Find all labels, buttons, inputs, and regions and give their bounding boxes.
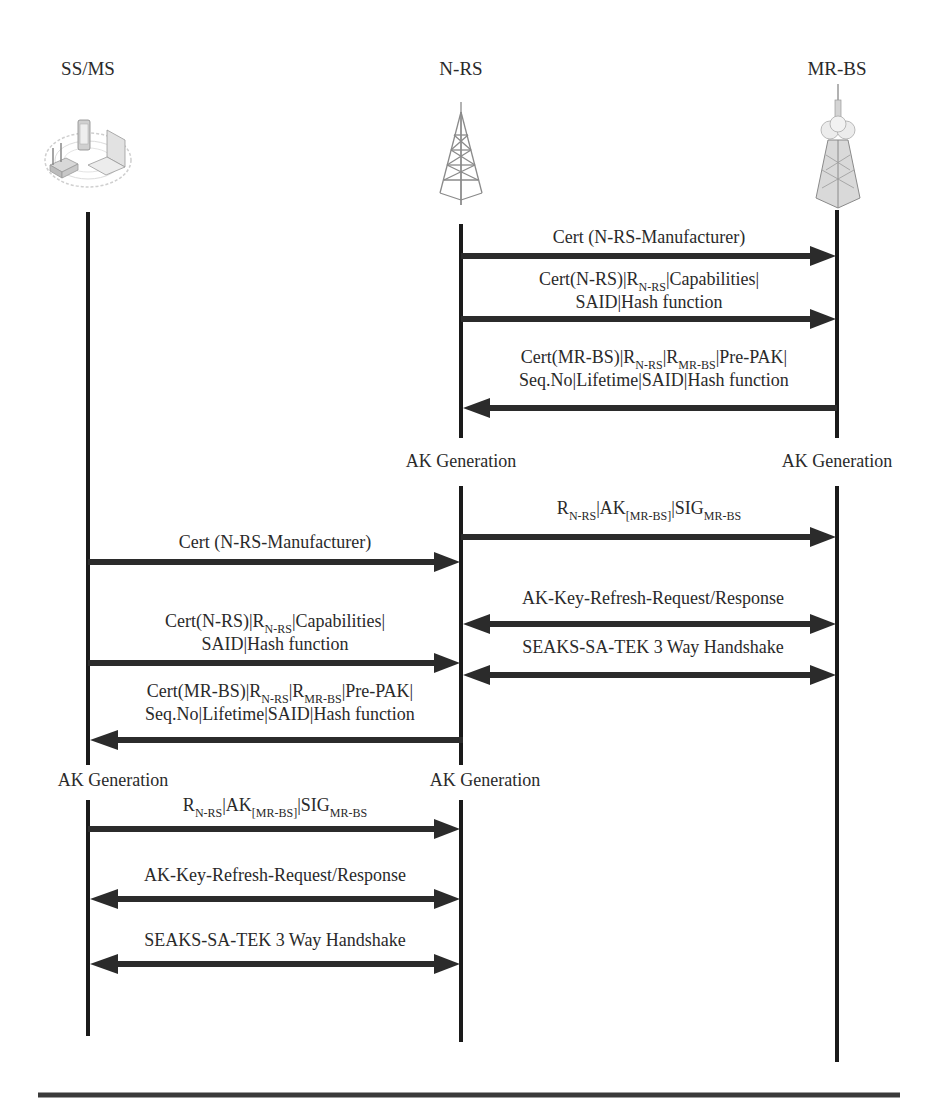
p1-msg5-label: AK-Key-Refresh-Request/Response <box>522 588 784 608</box>
p2-msg6-arrow <box>90 954 460 974</box>
p2-msg1-label: Cert (N-RS-Manufacturer) <box>179 532 371 553</box>
p1-msg4-label: RN-RS|AK[MR-BS]|SIGMR-BS <box>557 498 741 523</box>
p1-msg6-label: SEAKS-SA-TEK 3 Way Handshake <box>522 637 784 657</box>
lattice-tower-icon <box>440 102 482 205</box>
base-station-tower-icon <box>816 84 860 208</box>
p2-msg3-line1: Cert(MR-BS)|RN-RS|RMR-BS|Pre-PAK| <box>147 681 413 706</box>
p1-ak-generation-n-rs: AK Generation <box>406 451 516 471</box>
sequence-diagram: SS/MS N-RS MR-BS <box>0 0 950 1109</box>
p1-msg2-line1: Cert(N-RS)|RN-RS|Capabilities| <box>539 269 759 294</box>
participant-ss-ms-label: SS/MS <box>61 58 115 79</box>
p1-ak-generation-mr-bs: AK Generation <box>782 451 892 471</box>
p2-msg5-arrow <box>90 889 460 909</box>
p1-msg3-line2: Seq.No|Lifetime|SAID|Hash function <box>519 370 789 390</box>
p2-msg6-label: SEAKS-SA-TEK 3 Way Handshake <box>144 930 406 950</box>
p2-ak-generation-n-rs: AK Generation <box>430 770 540 790</box>
participant-n-rs-label: N-RS <box>439 58 482 79</box>
p1-msg1-arrow <box>461 246 836 266</box>
p1-msg1-label: Cert (N-RS-Manufacturer) <box>553 227 745 248</box>
p1-msg2-arrow <box>461 309 836 329</box>
p2-msg5-label: AK-Key-Refresh-Request/Response <box>144 865 406 885</box>
p2-msg4-label: RN-RS|AK[MR-BS]|SIGMR-BS <box>183 795 367 820</box>
p1-msg5-arrow <box>463 614 836 634</box>
p2-msg2-arrow <box>88 653 460 673</box>
p2-msg3-line2: Seq.No|Lifetime|SAID|Hash function <box>145 704 415 724</box>
p2-msg4-arrow <box>88 819 460 839</box>
p2-msg1-arrow <box>88 552 460 572</box>
p1-msg6-arrow <box>463 665 836 685</box>
p2-msg2-line1: Cert(N-RS)|RN-RS|Capabilities| <box>165 611 385 636</box>
p2-ak-generation-ss-ms: AK Generation <box>58 770 168 790</box>
p2-msg3-arrow <box>90 730 463 750</box>
p1-msg2-line2: SAID|Hash function <box>575 292 722 312</box>
p1-msg3-line1: Cert(MR-BS)|RN-RS|RMR-BS|Pre-PAK| <box>521 347 787 372</box>
p1-msg4-arrow <box>461 527 836 547</box>
p2-msg2-line2: SAID|Hash function <box>201 634 348 654</box>
wireless-devices-icon <box>45 120 131 187</box>
p1-msg3-arrow <box>463 398 837 418</box>
participant-mr-bs-label: MR-BS <box>807 58 866 79</box>
